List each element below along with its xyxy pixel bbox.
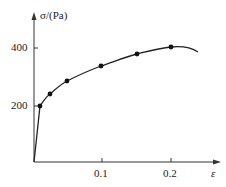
y-axis-arrow-icon	[32, 12, 37, 20]
x-tick-0.1: 0.1	[94, 167, 108, 179]
y-axis-label: σ/(Pa)	[40, 9, 67, 21]
data-markers	[38, 45, 174, 109]
y-tick-200: 200	[11, 99, 28, 111]
y-tick-400: 400	[11, 41, 28, 53]
stress-strain-chart	[0, 0, 226, 187]
x-axis-label: ε	[211, 167, 215, 179]
data-curve	[34, 47, 198, 162]
x-axis-arrow-icon	[213, 160, 221, 165]
x-tick-0.2: 0.2	[163, 167, 177, 179]
